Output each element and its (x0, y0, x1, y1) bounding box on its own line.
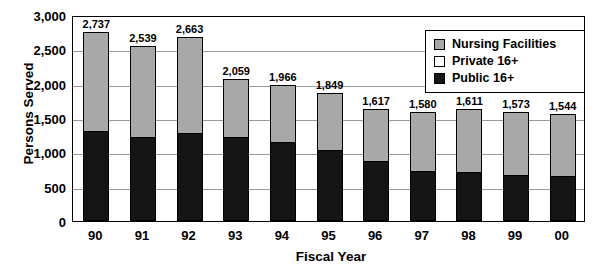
stacked-bar-chart: Persons Served 05001,0001,5002,0002,5003… (0, 0, 602, 274)
bar-group[interactable]: 2,059 (223, 17, 249, 221)
legend-swatch-icon (434, 56, 445, 67)
bar-total-label: 2,663 (160, 23, 220, 35)
bar-group[interactable]: 2,737 (83, 17, 109, 221)
bar-group[interactable]: 1,966 (270, 17, 296, 221)
bar-stack (363, 110, 389, 221)
legend-swatch-icon (434, 73, 445, 84)
y-tick-2500: 2,500 (20, 43, 66, 58)
bar-segment-nursing[interactable] (177, 37, 203, 134)
bar-stack (410, 113, 436, 221)
bar-segment-public[interactable] (223, 137, 249, 221)
bar-stack (550, 115, 576, 221)
bar-segment-public[interactable] (550, 176, 576, 221)
bar-stack (223, 80, 249, 221)
bar-segment-public[interactable] (130, 137, 156, 221)
y-tick-1500: 1,500 (20, 112, 66, 127)
bar-stack (270, 86, 296, 221)
legend-swatch-icon (434, 39, 445, 50)
bar-segment-nursing[interactable] (456, 109, 482, 173)
y-tick-2000: 2,000 (20, 77, 66, 92)
bar-group[interactable]: 1,617 (363, 17, 389, 221)
bar-segment-nursing[interactable] (317, 93, 343, 151)
bar-total-label: 2,737 (66, 18, 126, 30)
x-tick-00: 00 (532, 228, 592, 243)
bar-segment-nursing[interactable] (363, 109, 389, 162)
bar-stack (456, 110, 482, 221)
legend-item[interactable]: Nursing Facilities (434, 36, 578, 52)
bar-segment-nursing[interactable] (410, 112, 436, 172)
y-tick-0: 0 (20, 215, 66, 230)
bar-segment-public[interactable] (456, 172, 482, 221)
bar-group[interactable]: 2,539 (130, 17, 156, 221)
bar-segment-public[interactable] (503, 175, 529, 221)
bar-group[interactable]: 2,663 (177, 17, 203, 221)
legend-label: Private 16+ (452, 55, 518, 68)
y-tick-500: 500 (20, 180, 66, 195)
bar-total-label: 1,544 (533, 100, 593, 112)
bar-segment-nursing[interactable] (270, 85, 296, 143)
bar-stack (177, 38, 203, 221)
bar-stack (130, 47, 156, 221)
legend-item[interactable]: Private 16+ (434, 53, 578, 69)
bar-segment-nursing[interactable] (130, 46, 156, 138)
bar-segment-nursing[interactable] (83, 32, 109, 132)
bar-segment-public[interactable] (83, 131, 109, 221)
bar-segment-public[interactable] (317, 150, 343, 221)
legend-label: Public 16+ (452, 72, 514, 85)
bar-stack (317, 94, 343, 221)
bar-group[interactable]: 1,849 (317, 17, 343, 221)
y-tick-1000: 1,000 (20, 146, 66, 161)
x-axis-title: Fiscal Year (0, 249, 602, 264)
bar-segment-public[interactable] (177, 133, 203, 221)
y-tick-3000: 3,000 (20, 9, 66, 24)
bar-segment-nursing[interactable] (503, 112, 529, 176)
bar-total-label: 1,849 (300, 79, 360, 91)
legend-label: Nursing Facilities (452, 38, 556, 51)
y-axis-tick-labels: 05001,0001,5002,0002,5003,000 (18, 0, 66, 274)
bar-segment-public[interactable] (270, 142, 296, 221)
bar-segment-nursing[interactable] (223, 79, 249, 138)
chart-legend: Nursing FacilitiesPrivate 16+Public 16+ (425, 30, 585, 93)
legend-item[interactable]: Public 16+ (434, 70, 578, 86)
bar-segment-public[interactable] (410, 171, 436, 221)
bar-segment-nursing[interactable] (550, 114, 576, 177)
bar-stack (503, 113, 529, 221)
bar-segment-public[interactable] (363, 161, 389, 221)
bar-stack (83, 33, 109, 221)
